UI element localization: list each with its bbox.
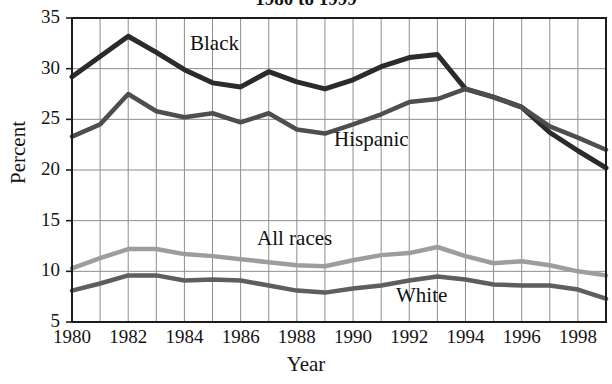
y-tick-label: 35 <box>20 6 60 28</box>
x-axis-label: Year <box>0 352 612 377</box>
x-tick-label: 1982 <box>98 326 158 348</box>
x-tick-label: 1990 <box>323 326 383 348</box>
x-tick-label: 1986 <box>211 326 271 348</box>
y-tick-label: 25 <box>20 107 60 129</box>
x-tick-label: 1980 <box>42 326 102 348</box>
chart-title: 1980 to 1999 <box>0 0 612 6</box>
y-tick-label: 30 <box>20 57 60 79</box>
y-tick-label: 15 <box>20 209 60 231</box>
x-tick-label: 1988 <box>267 326 327 348</box>
series-annotation-black: Black <box>190 31 239 56</box>
series-annotation-white: White <box>396 283 447 308</box>
y-tick-label: 10 <box>20 259 60 281</box>
data-series-layer <box>72 36 606 298</box>
x-tick-label: 1994 <box>435 326 495 348</box>
y-axis-label: Percent <box>6 83 31 223</box>
series-annotation-all-races: All races <box>257 226 332 251</box>
x-tick-label: 1996 <box>492 326 552 348</box>
chart-figure: 1980 to 1999 Percent Year 3530252015105 … <box>0 0 612 384</box>
series-annotation-hispanic: Hispanic <box>334 127 409 152</box>
series-line-white <box>72 275 606 298</box>
x-tick-label: 1992 <box>379 326 439 348</box>
x-tick-label: 1984 <box>154 326 214 348</box>
y-tick-label: 20 <box>20 158 60 180</box>
x-tick-label: 1998 <box>548 326 608 348</box>
